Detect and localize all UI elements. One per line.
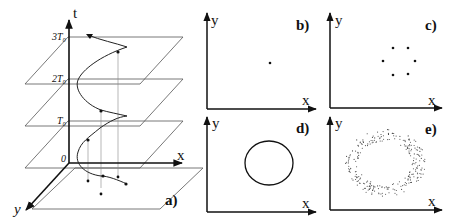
plane-t0 [25, 121, 183, 168]
c-y-label: y [335, 12, 343, 28]
y-axis [26, 163, 69, 210]
c-points [382, 47, 417, 77]
panel-a: t x y 0 T₀ 2T₀ 3T₀ a) [12, 5, 203, 217]
panel-b: y x b) [207, 12, 316, 109]
panel-d: y x d) [207, 115, 316, 212]
e-y-label: y [335, 115, 343, 131]
c-x-label: x [428, 92, 436, 108]
d-ellipse [245, 141, 293, 185]
curve-points [86, 50, 127, 185]
d-y-label: y [212, 115, 220, 131]
panel-c: y x c) [330, 12, 442, 108]
plane-2t0 [25, 79, 183, 126]
trajectory-curve [77, 35, 127, 184]
x-axis-label: x [177, 147, 185, 163]
b-x-label: x [302, 92, 310, 108]
2t0-label: 2T₀ [52, 73, 67, 84]
panel-a-label: a) [165, 192, 178, 209]
e-noisy-ring [345, 129, 425, 197]
y-axis-label: y [12, 201, 21, 217]
e-x-label: x [428, 193, 436, 209]
origin-label: 0 [61, 153, 66, 164]
t-axis-label: t [73, 5, 78, 21]
b-point [269, 62, 272, 65]
3t0-label: 3T₀ [51, 31, 67, 42]
panel-b-label: b) [296, 17, 309, 34]
figure-canvas: t x y 0 T₀ 2T₀ 3T₀ a) y x b) y x c) y x [0, 0, 458, 223]
t0-label: T₀ [57, 115, 67, 126]
panel-d-label: d) [296, 120, 309, 137]
b-y-label: y [211, 12, 219, 28]
time-planes [25, 37, 203, 209]
panel-c-label: c) [425, 17, 437, 34]
plane-3t0 [25, 37, 183, 84]
panel-e: y x e) [330, 115, 442, 210]
panel-e-label: e) [425, 121, 437, 138]
d-x-label: x [302, 195, 310, 211]
